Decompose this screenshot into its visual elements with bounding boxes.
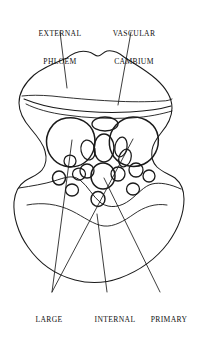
label-large-vessels-line-1: LARGE [12,315,86,324]
label-vascular-cambium-line-2: CAMBIUM [97,57,171,66]
label-vascular-cambium-line-1: VASCULAR [97,29,171,38]
figure-root: EXTERNAL PHLOEM VASCULAR CAMBIUM LARGE V… [0,0,199,344]
label-external-phloem: EXTERNAL PHLOEM [26,10,94,85]
label-vascular-cambium: VASCULAR CAMBIUM [97,10,171,85]
outer-cortex-outline [14,51,184,283]
label-primary-xylem: PRIMARY XYLEM [140,296,198,344]
label-large-vessels-of-secondary-xylem: LARGE VESSELS OF SECONDARY XYLEM [12,296,86,344]
label-external-phloem-line-1: EXTERNAL [26,29,94,38]
label-internal-phloem-line-1: INTERNAL [84,315,146,324]
label-external-phloem-line-2: PHLOEM [26,57,94,66]
label-internal-phloem: INTERNAL PHLOEM [84,296,146,344]
label-primary-xylem-line-1: PRIMARY [140,315,198,324]
